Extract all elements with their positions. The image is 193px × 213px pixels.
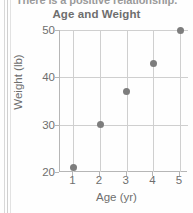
y-axis-tick-label: 40 <box>31 71 55 83</box>
clipped-sentence-above-figure: There is a positive relationship. <box>16 0 193 6</box>
x-axis-tick-label: 3 <box>116 174 136 186</box>
y-axis-tick-label: 50 <box>31 24 55 36</box>
x-axis-tick-label: 2 <box>89 174 109 186</box>
scatter-data-point <box>123 88 130 95</box>
x-axis-tick-label: 4 <box>142 174 162 186</box>
gridline-horizontal <box>60 30 188 31</box>
gridline-horizontal <box>60 77 188 78</box>
gridline-vertical <box>153 30 154 172</box>
scatter-data-point <box>97 121 104 128</box>
x-axis-tick-label: 1 <box>62 174 82 186</box>
x-axis-title: Age (yr) <box>40 191 193 203</box>
y-axis-tick-label: 20 <box>31 166 55 178</box>
chart-title: Age and Weight <box>0 8 193 20</box>
gridline-vertical <box>100 30 101 172</box>
scatter-data-point <box>70 164 77 171</box>
y-axis-tick-labels: 20304050 <box>27 30 55 172</box>
scatter-data-point <box>177 27 184 34</box>
x-axis-tick-labels: 12345 <box>59 174 187 190</box>
y-axis-title: Weight (lb) <box>12 22 24 142</box>
gridline-horizontal <box>60 125 188 126</box>
scatter-data-point <box>150 60 157 67</box>
page-edge-line <box>4 0 5 213</box>
gridline-vertical <box>127 30 128 172</box>
gridline-vertical <box>73 30 74 172</box>
gridline-vertical <box>180 30 181 172</box>
page-edge-line <box>7 0 8 213</box>
x-axis-tick-label: 5 <box>169 174 189 186</box>
y-axis-tick-label: 30 <box>31 119 55 131</box>
scatter-plot-area <box>59 30 187 172</box>
page-edge-line <box>10 0 11 213</box>
